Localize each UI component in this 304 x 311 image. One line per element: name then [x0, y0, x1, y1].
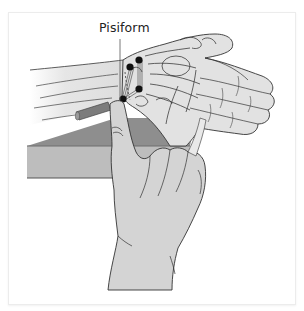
ligament-dot-lower [135, 85, 142, 92]
pisiform-palpation-illustration [0, 0, 304, 311]
pisiform-proximal-dot [126, 63, 133, 70]
pisiform-label: Pisiform [99, 20, 150, 35]
hamate-dot [135, 56, 142, 63]
